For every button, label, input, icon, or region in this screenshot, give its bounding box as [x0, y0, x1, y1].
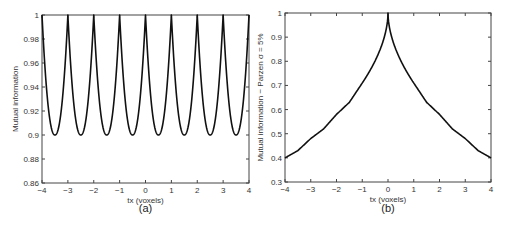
panel-label: (b) — [381, 202, 394, 214]
x-tick-label: 2 — [437, 185, 442, 194]
y-tick-label: 0.88 — [23, 155, 39, 164]
y-tick-label: 0.7 — [271, 81, 283, 90]
y-tick-label: 0.3 — [271, 178, 283, 187]
x-tick-label: −3 — [306, 185, 316, 194]
y-tick-label: 0.86 — [23, 179, 39, 188]
x-tick-label: 3 — [221, 186, 226, 195]
y-axis-label: Mutual information − Parzen σ = 5% — [256, 33, 265, 161]
x-tick-label: −1 — [115, 186, 125, 195]
x-tick-label: −2 — [89, 186, 99, 195]
figure: −4−3−2−1012340.860.880.90.920.940.960.98… — [0, 0, 510, 229]
y-tick-label: 1 — [278, 9, 283, 18]
y-tick-label: 0.98 — [23, 35, 39, 44]
y-tick-label: 0.8 — [271, 57, 283, 66]
x-tick-label: 1 — [412, 185, 417, 194]
chart-panel-b: −4−3−2−1012340.30.40.50.60.70.80.91tx (v… — [256, 9, 494, 214]
y-tick-label: 0.96 — [23, 59, 39, 68]
x-tick-label: 1 — [169, 186, 174, 195]
y-tick-label: 0.4 — [271, 154, 283, 163]
x-tick-label: 0 — [386, 185, 391, 194]
y-axis-label: Mutual information — [11, 66, 20, 132]
y-tick-label: 0.6 — [271, 106, 283, 115]
panel-label: (a) — [139, 202, 152, 214]
y-tick-label: 0.94 — [23, 83, 39, 92]
data-line — [42, 15, 249, 135]
data-line — [285, 13, 491, 158]
x-tick-label: 2 — [195, 186, 200, 195]
y-tick-label: 0.5 — [271, 130, 283, 139]
axes-frame — [285, 13, 491, 182]
x-tick-label: −1 — [358, 185, 368, 194]
x-tick-label: 4 — [247, 186, 252, 195]
y-tick-label: 1 — [35, 11, 40, 20]
x-tick-label: 3 — [463, 185, 468, 194]
x-tick-label: −2 — [332, 185, 342, 194]
chart-panel-a: −4−3−2−1012340.860.880.90.920.940.960.98… — [11, 11, 252, 214]
y-tick-label: 0.9 — [271, 33, 283, 42]
y-tick-label: 0.9 — [28, 131, 40, 140]
y-tick-label: 0.92 — [23, 107, 39, 116]
x-tick-label: 0 — [143, 186, 148, 195]
x-tick-label: 4 — [489, 185, 494, 194]
x-tick-label: −3 — [63, 186, 73, 195]
